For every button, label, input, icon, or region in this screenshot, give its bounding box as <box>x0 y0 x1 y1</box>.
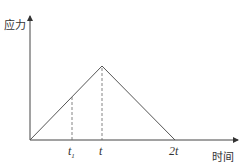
tick-label-2t: 2t <box>169 145 178 157</box>
tick-label-t1: t1 <box>68 145 75 160</box>
x-axis-label: 时间 <box>212 152 234 163</box>
diagram-canvas <box>0 0 244 164</box>
stress-curve <box>30 66 175 140</box>
tick-label-t: t <box>99 145 102 157</box>
y-axis-label: 应力 <box>4 20 26 31</box>
